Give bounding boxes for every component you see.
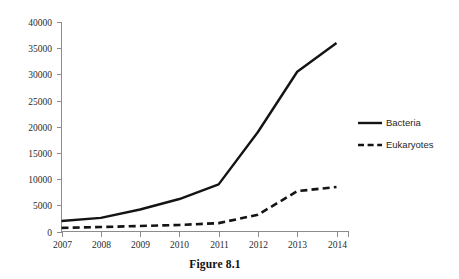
- y-axis-ticks: 0500010000150002000025000300003500040000: [28, 18, 61, 238]
- y-tick-label: 15000: [28, 149, 52, 159]
- legend-label-eukaryotes: Eukaryotes: [386, 139, 434, 150]
- x-axis-ticks: 20072008200920102011201220132014: [53, 232, 349, 251]
- y-tick-label: 20000: [28, 123, 52, 133]
- y-tick-label: 25000: [28, 97, 52, 107]
- line-chart: 0500010000150002000025000300003500040000…: [0, 0, 459, 279]
- x-tick-label: 2014: [328, 240, 347, 250]
- x-tick-label: 2007: [53, 240, 72, 250]
- y-tick-label: 5000: [33, 201, 52, 211]
- x-tick-label: 2008: [92, 240, 111, 250]
- series-line-bacteria: [62, 43, 337, 221]
- y-tick-label: 0: [47, 228, 52, 238]
- y-axis: 0500010000150002000025000300003500040000: [28, 18, 61, 238]
- x-tick-label: 2012: [249, 240, 268, 250]
- x-tick-label: 2010: [170, 240, 189, 250]
- figure-container: 0500010000150002000025000300003500040000…: [0, 0, 459, 279]
- figure-caption: Figure 8.1: [0, 258, 430, 270]
- y-tick-label: 35000: [28, 44, 52, 54]
- x-axis: 20072008200920102011201220132014: [53, 232, 349, 251]
- y-tick-label: 40000: [28, 18, 52, 28]
- legend-label-bacteria: Bacteria: [386, 117, 422, 128]
- x-tick-label: 2009: [131, 240, 150, 250]
- y-tick-label: 30000: [28, 70, 52, 80]
- x-tick-label: 2013: [288, 240, 307, 250]
- y-tick-label: 10000: [28, 175, 52, 185]
- x-tick-label: 2011: [210, 240, 229, 250]
- chart-legend: BacteriaEukaryotes: [358, 117, 434, 150]
- series-line-eukaryotes: [62, 187, 337, 228]
- plot-series-group: [62, 43, 337, 228]
